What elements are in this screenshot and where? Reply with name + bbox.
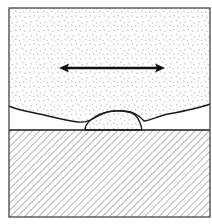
upper-stippled-layer	[9, 8, 210, 122]
diagram	[0, 0, 212, 224]
hatched-substrate	[9, 130, 210, 217]
